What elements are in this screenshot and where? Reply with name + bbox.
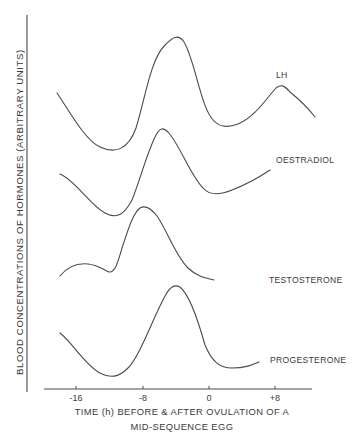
x-tick-label-minus8: -8 xyxy=(139,393,147,403)
x-axis-title-line1: TIME (h) BEFORE & AFTER OVULATION OF A xyxy=(62,406,302,417)
hormone-chart xyxy=(0,0,357,441)
x-axis-title-line2: MID-SEQUENCE EGG xyxy=(62,421,302,432)
oestradiol-curve xyxy=(60,129,270,216)
lh-curve xyxy=(57,37,315,150)
x-tick-label-minus16: -16 xyxy=(69,393,82,403)
lh-label: LH xyxy=(276,70,288,80)
y-axis-title: BLOOD CONCENTRATIONS OF HORMONES (ARBITR… xyxy=(14,49,25,375)
oestradiol-label: OESTRADIOL xyxy=(276,155,334,165)
progesterone-label: PROGESTERONE xyxy=(270,355,346,365)
progesterone-curve xyxy=(60,286,259,376)
testosterone-curve xyxy=(60,207,214,280)
testosterone-label: TESTOSTERONE xyxy=(269,275,343,285)
x-tick-label-0: 0 xyxy=(206,393,211,403)
x-tick-label-plus8: +8 xyxy=(270,393,280,403)
